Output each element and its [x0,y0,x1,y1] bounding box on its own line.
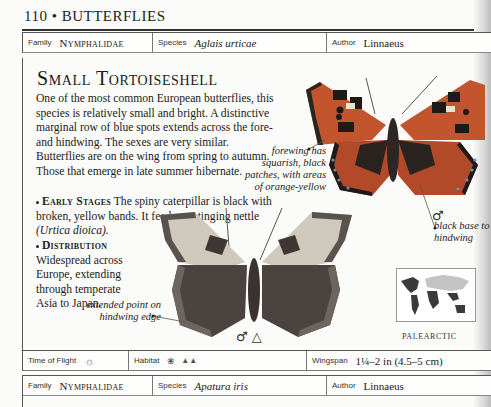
mountains-icon: ▲▲ [181,356,197,365]
region-label: PALEARCTIC [402,332,457,341]
illustrations [0,0,491,407]
wingspan-label: Wingspan [312,356,348,365]
next-entry-info-row: Family Nymphalidae Species Apatura iris … [22,375,491,396]
habitat-cell: Habitat ❀ ▲▲ [129,351,307,370]
next-author-cell: Author Linnaeus [327,376,491,395]
entry-footer-row: Time of Flight ☼ Habitat ❀ ▲▲ Wingspan 1… [22,350,491,371]
grass-icon: ❀ [167,356,175,366]
time-of-flight-label: Time of Flight [28,356,76,365]
next-author-value: Linnaeus [364,380,404,392]
next-author-label: Author [332,381,356,390]
next-species-label: Species [158,381,186,390]
wingspan-cell: Wingspan 1¼–2 in (4.5–5 cm) [307,351,491,370]
butterfly-underside-illustration [160,208,352,337]
next-species-cell: Species Apatura iris [153,376,327,395]
butterfly-upperside-illustration [306,76,485,196]
distribution-map [396,268,476,322]
habitat-label: Habitat [134,356,159,365]
next-family-value: Nymphalidae [60,380,124,392]
world-map-icon [397,269,475,321]
next-family-cell: Family Nymphalidae [23,376,153,395]
sun-icon: ☼ [84,355,94,367]
next-family-label: Family [28,381,52,390]
next-species-value: Apatura iris [194,380,247,392]
time-of-flight-cell: Time of Flight ☼ [23,351,129,370]
next-entry-border [22,395,23,407]
wingspan-value: 1¼–2 in (4.5–5 cm) [356,355,443,367]
